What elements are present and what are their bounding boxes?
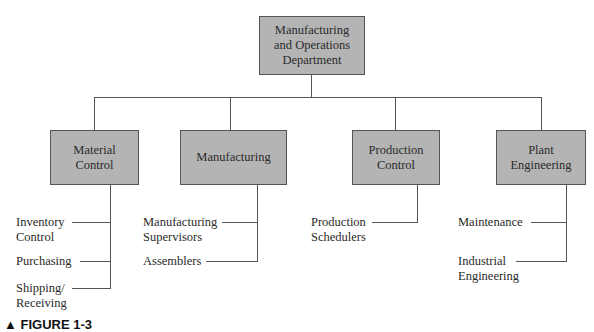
root-node-manufacturing-operations: Manufacturing and Operations Department xyxy=(259,16,365,75)
connector xyxy=(72,222,110,223)
role-assemblers: Assemblers xyxy=(143,254,201,269)
role-production-schedulers: Production Schedulers xyxy=(311,215,366,245)
role-inventory-control: Inventory Control xyxy=(16,215,65,245)
connector xyxy=(72,288,110,289)
connector xyxy=(110,185,111,289)
connector xyxy=(311,75,312,97)
role-manufacturing-supervisors: Manufacturing Supervisors xyxy=(143,215,217,245)
connector xyxy=(222,222,257,223)
connector xyxy=(566,185,567,262)
role-shipping-receiving: Shipping/ Receiving xyxy=(16,281,67,311)
connector xyxy=(80,261,110,262)
dept-plant-engineering: Plant Engineering xyxy=(496,130,586,185)
connector xyxy=(257,185,258,262)
role-industrial-engineering: Industrial Engineering xyxy=(458,254,519,284)
connector xyxy=(206,261,257,262)
connector xyxy=(417,185,418,223)
connector xyxy=(94,97,95,130)
role-maintenance: Maintenance xyxy=(458,215,523,230)
figure-caption: ▲ FIGURE 1-3 xyxy=(4,318,92,332)
dept-production-control: Production Control xyxy=(352,130,440,185)
connector xyxy=(230,97,231,130)
connector xyxy=(94,97,542,98)
connector xyxy=(372,222,417,223)
connector xyxy=(395,97,396,130)
dept-material-control: Material Control xyxy=(50,130,139,185)
dept-manufacturing: Manufacturing xyxy=(180,130,287,185)
role-purchasing: Purchasing xyxy=(16,254,72,269)
connector xyxy=(531,222,566,223)
connector xyxy=(516,261,566,262)
connector xyxy=(541,97,542,130)
